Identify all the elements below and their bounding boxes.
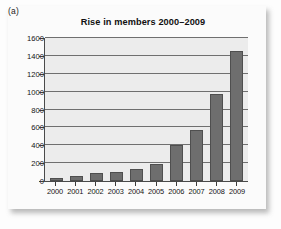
x-axis-tick-cell bbox=[106, 182, 126, 186]
bar-slot bbox=[187, 38, 207, 181]
y-axis: 02004006008001000120014001600 bbox=[0, 38, 44, 182]
x-axis-tick-cell bbox=[85, 182, 105, 186]
bar-slot bbox=[86, 38, 106, 181]
x-axis-labels: 2000200120022003200420052006200720082009 bbox=[44, 187, 248, 196]
bar-2006 bbox=[170, 145, 183, 181]
x-axis-tick-cell bbox=[186, 182, 206, 186]
bar-2007 bbox=[190, 130, 203, 181]
figure-root: (a) Rise in members 2000–2009 0200400600… bbox=[0, 0, 281, 229]
x-axis-label-2008: 2008 bbox=[207, 187, 227, 196]
x-axis-tick-mark bbox=[75, 182, 76, 186]
bar-2004 bbox=[130, 169, 143, 182]
x-axis-ticks bbox=[44, 182, 248, 186]
bar-series bbox=[45, 38, 248, 181]
bar-2000 bbox=[50, 178, 63, 181]
bar-slot bbox=[207, 38, 227, 181]
bar-2003 bbox=[110, 172, 123, 181]
x-axis-label-2000: 2000 bbox=[45, 187, 65, 196]
x-axis-tick-mark bbox=[115, 182, 116, 186]
bar-slot bbox=[106, 38, 126, 181]
bar-slot bbox=[66, 38, 86, 181]
x-axis-tick-mark bbox=[236, 182, 237, 186]
x-axis-tick-mark bbox=[95, 182, 96, 186]
x-axis-label-2004: 2004 bbox=[126, 187, 146, 196]
bar-2009 bbox=[230, 51, 243, 181]
chart-title: Rise in members 2000–2009 bbox=[36, 17, 250, 27]
bar-2002 bbox=[90, 173, 103, 181]
x-axis-label-2002: 2002 bbox=[85, 187, 105, 196]
x-axis-tick-cell bbox=[146, 182, 166, 186]
x-axis-tick-cell bbox=[227, 182, 247, 186]
x-axis-tick-mark bbox=[176, 182, 177, 186]
panel-label: (a) bbox=[8, 6, 19, 16]
bar-slot bbox=[167, 38, 187, 181]
x-axis: 2000200120022003200420052006200720082009 bbox=[44, 182, 248, 208]
bar-2008 bbox=[210, 94, 223, 181]
x-axis-tick-cell bbox=[65, 182, 85, 186]
x-axis-tick-cell bbox=[166, 182, 186, 186]
x-axis-tick-cell bbox=[207, 182, 227, 186]
x-axis-tick-mark bbox=[156, 182, 157, 186]
x-axis-label-2003: 2003 bbox=[106, 187, 126, 196]
x-axis-tick-cell bbox=[126, 182, 146, 186]
x-axis-tick-mark bbox=[135, 182, 136, 186]
bar-2005 bbox=[150, 164, 163, 181]
plot-area bbox=[44, 38, 248, 182]
bar-slot bbox=[46, 38, 66, 181]
x-axis-label-2001: 2001 bbox=[65, 187, 85, 196]
bar-slot bbox=[227, 38, 247, 181]
bar-2001 bbox=[70, 176, 83, 181]
x-axis-tick-cell bbox=[45, 182, 65, 186]
x-axis-label-2007: 2007 bbox=[186, 187, 206, 196]
bar-slot bbox=[146, 38, 166, 181]
x-axis-label-2006: 2006 bbox=[166, 187, 186, 196]
x-axis-label-2005: 2005 bbox=[146, 187, 166, 196]
bar-slot bbox=[126, 38, 146, 181]
x-axis-tick-mark bbox=[196, 182, 197, 186]
x-axis-tick-mark bbox=[216, 182, 217, 186]
x-axis-tick-mark bbox=[55, 182, 56, 186]
x-axis-label-2009: 2009 bbox=[227, 187, 247, 196]
